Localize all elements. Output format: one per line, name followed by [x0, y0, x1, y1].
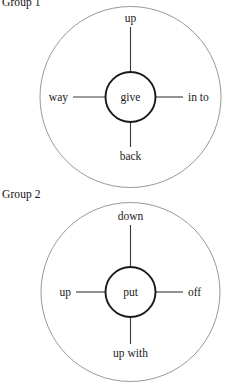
word-web-group-1: Group 1 give up way in to back: [0, 0, 230, 193]
satellite-top-2: down: [118, 210, 144, 222]
word-web-group-2: Group 2 put down up off up with: [0, 188, 230, 387]
satellite-bottom-1: back: [120, 150, 142, 162]
center-word-1: give: [121, 91, 141, 104]
satellite-top-1: up: [125, 12, 137, 25]
satellite-right-1: in to: [188, 91, 209, 103]
word-web-diagram-1: give up way in to back: [0, 0, 230, 193]
satellite-left-1: way: [49, 91, 68, 104]
satellite-bottom-2: up with: [113, 347, 148, 360]
diagram-page: Group 1 give up way in to back Group 2: [0, 0, 230, 387]
word-web-diagram-2: put down up off up with: [0, 196, 230, 387]
satellite-right-2: off: [188, 286, 201, 298]
center-word-2: put: [123, 286, 139, 299]
satellite-left-2: up: [60, 286, 72, 299]
